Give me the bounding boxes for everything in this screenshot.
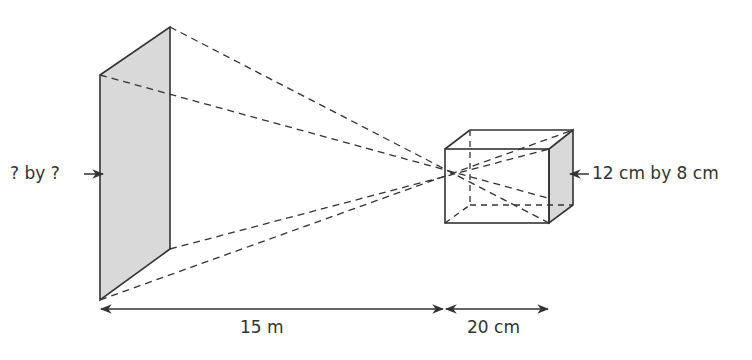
screen-size-label: ? by ? (10, 163, 60, 183)
distance-20cm-label: 20 cm (467, 317, 520, 337)
camera-projection-diagram: ? by ? 12 cm by 8 cm 15 m 20 cm (0, 0, 752, 360)
distance-15m-label: 15 m (240, 317, 284, 337)
object-size-label: 12 cm by 8 cm (592, 163, 719, 183)
screen-plane (100, 27, 170, 300)
pinhole-box (445, 130, 573, 223)
projection-rays (100, 27, 573, 300)
